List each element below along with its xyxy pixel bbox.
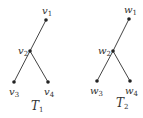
label-w4: w4 [125, 85, 139, 98]
node-v2 [28, 49, 32, 53]
node-v4 [46, 80, 50, 84]
label-v1: v1 [42, 5, 52, 18]
node-w4 [128, 79, 132, 83]
node-w2 [111, 49, 115, 53]
label-v4: v4 [44, 86, 55, 99]
node-v3 [12, 80, 16, 84]
edge-v1-v2 [30, 20, 46, 51]
tree-label-t2: T2 [116, 96, 128, 111]
node-v1 [44, 18, 48, 22]
label-w1: w1 [124, 4, 137, 17]
edge-v2-v4 [30, 51, 48, 82]
node-w1 [127, 17, 131, 21]
node-w3 [95, 79, 99, 83]
label-w3: w3 [90, 85, 103, 98]
tree-t1: v1 v2 v3 v4 T1 [9, 5, 55, 114]
tree-label-t1: T1 [31, 99, 43, 114]
label-v3: v3 [9, 86, 19, 99]
label-v2: v2 [18, 45, 28, 58]
edge-w2-w4 [113, 51, 130, 81]
tree-t2: w1 w2 w3 w4 T2 [90, 4, 139, 111]
tree-diagram: v1 v2 v3 v4 T1 w1 w2 w3 w4 T2 [0, 0, 143, 118]
label-w2: w2 [98, 45, 111, 58]
edge-w1-w2 [113, 19, 129, 51]
